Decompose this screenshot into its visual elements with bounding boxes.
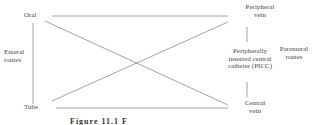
central-vein-line2: vein <box>232 108 278 116</box>
edge-tube-peripheral <box>52 22 228 101</box>
enteral-line2: routes <box>4 57 24 65</box>
parenteral-line2: routes <box>274 54 314 62</box>
tube-label: Tube <box>24 103 38 111</box>
node-peripheral-vein: Peripheral vein <box>231 4 289 19</box>
group-parenteral-routes: Parenteral routes <box>274 46 314 61</box>
picc-line3: catheter (PICC) <box>218 63 282 71</box>
oral-label: Oral <box>24 11 36 19</box>
node-central-vein: Central vein <box>232 100 278 115</box>
group-enteral-routes: Enteral routes <box>4 49 24 64</box>
node-oral: Oral <box>24 12 36 20</box>
node-tube: Tube <box>24 104 38 112</box>
figure-caption: Figure 11.1 F <box>70 117 128 125</box>
node-picc: Peripherally inserted central catheter (… <box>218 48 282 71</box>
peripheral-vein-line2: vein <box>231 12 289 20</box>
